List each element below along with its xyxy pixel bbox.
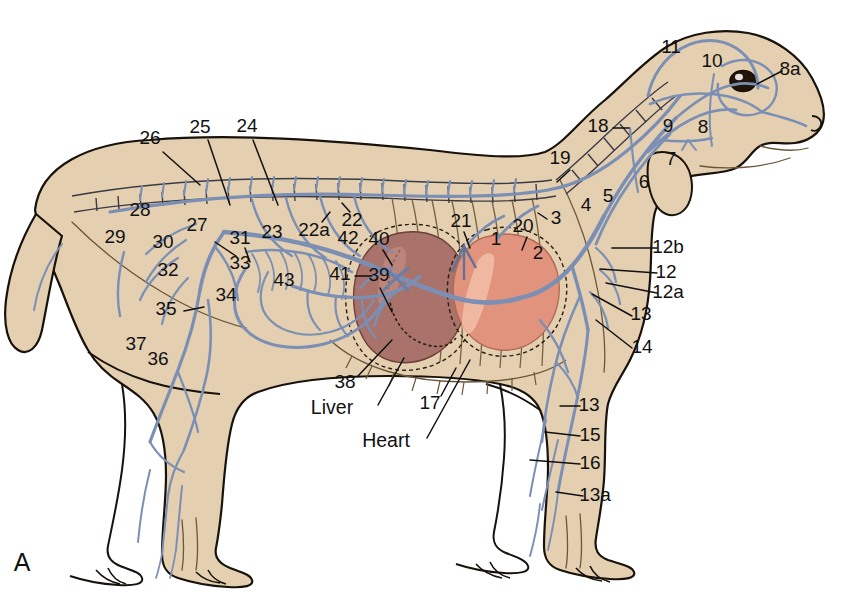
anatomy-figure-panel: 123456788a910111212a12b131313a1415161718… [0,0,847,603]
label-n37: 37 [125,333,146,354]
label-n36: 36 [147,348,168,369]
label-n30: 30 [152,231,173,252]
label-n29: 29 [104,226,125,247]
label-n14: 14 [631,336,653,357]
label-n27: 27 [186,214,207,235]
label-n8a: 8a [779,58,801,79]
label-n15: 15 [579,424,600,445]
label-n32: 32 [157,259,178,280]
canine-venous-system-illustration: 123456788a910111212a12b131313a1415161718… [0,0,847,603]
label-n38: 38 [334,371,355,392]
label-n34: 34 [215,284,237,305]
label-n35: 35 [155,298,176,319]
label-n12: 12 [655,261,676,282]
label-n13a: 13a [579,484,611,505]
label-n5: 5 [603,185,614,206]
label-n3: 3 [551,207,562,228]
label-n8: 8 [698,116,709,137]
label-n40: 40 [368,228,389,249]
label-n19: 19 [549,147,570,168]
label-n1: 1 [491,228,502,249]
rear-paw-right [96,568,126,584]
label-n12a: 12a [652,281,684,302]
eye-highlight [735,74,743,80]
label-n4: 4 [581,194,592,215]
label-n24: 24 [236,115,258,136]
label-n7: 7 [666,148,677,169]
front-leg-rear-edge [456,384,528,573]
label-n41: 41 [329,263,350,284]
label-n28: 28 [129,199,150,220]
muzzle-line [760,146,808,150]
label-n42: 42 [337,227,358,248]
rear-leg-front-edge [70,384,142,585]
organ-labels-group: LiverHeart [311,396,411,451]
label-n9: 9 [663,115,674,136]
label-n33: 33 [229,252,250,273]
label-n11: 11 [661,36,681,57]
tail [5,214,62,352]
label-n43: 43 [273,269,294,290]
organ-label-heart: Heart [362,429,410,451]
label-n10: 10 [701,50,722,71]
label-n13b: 13 [578,394,599,415]
label-n25: 25 [189,116,210,137]
label-n16: 16 [579,452,600,473]
panel-letter-a: A [14,548,31,576]
label-n18: 18 [587,115,608,136]
organ-label-liver: Liver [311,396,354,418]
label-n17: 17 [419,392,440,413]
label-n12b: 12b [652,236,684,257]
label-n26: 26 [139,127,160,148]
label-n22a: 22a [298,219,330,240]
label-n39: 39 [368,264,389,285]
label-n23: 23 [261,221,282,242]
label-n13: 13 [630,303,651,324]
label-n2: 2 [533,242,544,263]
label-n21: 21 [450,210,471,231]
label-n20: 20 [512,215,533,236]
eye [730,71,756,92]
label-n6: 6 [639,171,650,192]
label-n31: 31 [229,227,250,248]
